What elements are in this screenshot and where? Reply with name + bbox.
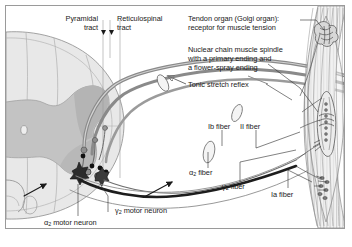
label-fiber-ii: II fiber	[240, 122, 260, 131]
synapse-bouton	[90, 164, 95, 169]
label-pyramidal-tract: Pyramidal tract	[30, 14, 98, 32]
diagram-artwork	[0, 0, 352, 247]
gamma-motor-subscript: 2	[119, 209, 122, 215]
alpha-motor-subscript: 2	[48, 221, 51, 227]
label-fiber-ia: Ia fiber	[271, 190, 293, 199]
reticulospinal-tract-line2: tract	[117, 23, 162, 32]
label-fiber-ib: Ib fiber	[208, 122, 230, 131]
fiber-ib-text: Ib fiber	[208, 122, 230, 131]
tendon-organ-line2: receptor for muscle tension	[188, 23, 279, 32]
fiber-alpha2-text: fiber	[198, 168, 212, 177]
label-tendon-organ: Tendon organ (Golgi organ): receptor for…	[188, 14, 279, 32]
label-muscle-spindle: Nuclear chain muscle spindle with a prim…	[188, 45, 283, 73]
fiber-ii-text: II fiber	[240, 122, 260, 131]
label-reticulospinal-tract: Reticulospinal tract	[117, 14, 162, 32]
gamma-subscript: 2	[226, 185, 229, 191]
muscle-spindle-line1: Nuclear chain muscle spindle	[188, 45, 283, 54]
label-gamma2-motor-neuron: γ2 motor neuron	[115, 206, 167, 217]
central-canal	[21, 126, 27, 135]
label-alpha2-motor-neuron: α2 motor neuron	[44, 218, 97, 229]
label-fiber-gamma2: γ2 fiber	[222, 182, 245, 193]
synapse-bouton	[81, 154, 86, 159]
fiber-ia-text: Ia fiber	[271, 190, 293, 199]
label-tonic-stretch-reflex: Tonic stretch reflex	[188, 80, 249, 89]
pyramidal-tract-line2: tract	[30, 23, 98, 32]
reticulospinal-tract-line1: Reticulospinal	[117, 14, 162, 23]
tendon-organ-line1: Tendon organ (Golgi organ):	[188, 14, 279, 23]
pyramidal-tract-arrow	[101, 30, 106, 35]
muscle-spindle-line2: with a primary ending and	[188, 54, 283, 63]
alpha2-motor-neuron-text: motor neuron	[53, 218, 96, 227]
conduction-direction-arrow	[146, 182, 172, 196]
fiber-gamma2-text: fiber	[231, 182, 245, 191]
alpha-subscript: 2	[193, 171, 196, 177]
label-fiber-alpha2: α2 fiber	[189, 168, 212, 179]
tonic-stretch-reflex-text: Tonic stretch reflex	[188, 80, 249, 89]
anatomy-figure: Pyramidal tract Reticulospinal tract Ten…	[0, 0, 352, 247]
muscle-spindle-line3: a flower-spray ending	[188, 63, 283, 72]
skeletal-muscle	[296, 6, 346, 228]
pyramidal-tract-line1: Pyramidal	[30, 14, 98, 23]
gamma2-motor-neuron-text: motor neuron	[124, 206, 167, 215]
